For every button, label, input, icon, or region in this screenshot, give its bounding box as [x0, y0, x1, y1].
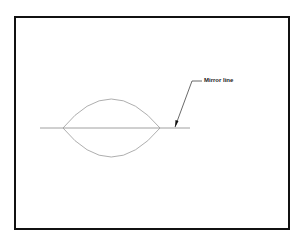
- leader-line: [175, 81, 202, 127]
- arrowhead-icon: [175, 120, 179, 128]
- lower-arc: [63, 128, 160, 157]
- upper-arc: [63, 99, 160, 128]
- sketch-canvas: [0, 0, 304, 236]
- mirror-line-label: Mirror line: [204, 77, 233, 83]
